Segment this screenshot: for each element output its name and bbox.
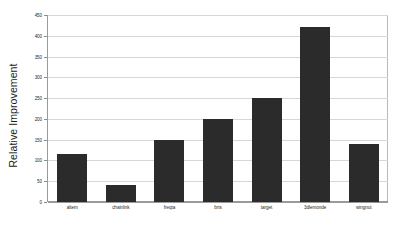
y-tick-label: 400 — [35, 33, 42, 38]
x-tick-label: brts — [214, 205, 221, 210]
y-tick-label: 350 — [35, 54, 42, 59]
bar[interactable] — [349, 144, 379, 202]
y-tick-label: 100 — [35, 158, 42, 163]
bar[interactable] — [57, 154, 87, 202]
bar[interactable] — [300, 27, 330, 202]
y-tick-mark — [44, 98, 47, 99]
bar[interactable] — [203, 119, 233, 202]
bar[interactable] — [106, 185, 136, 202]
bar[interactable] — [154, 140, 184, 202]
y-tick-mark — [44, 140, 47, 141]
bars-group — [48, 15, 388, 202]
y-tick-mark — [44, 77, 47, 78]
x-tick-label: freqta — [164, 205, 175, 210]
x-tick-label: altem — [67, 205, 78, 210]
y-tick-label: 450 — [35, 13, 42, 18]
y-tick-mark — [44, 15, 47, 16]
y-tick-label: 0 — [40, 200, 42, 205]
y-tick-mark — [44, 36, 47, 37]
bar-chart: Relative Improvement 0501001502002503003… — [0, 0, 396, 231]
y-tick-label: 300 — [35, 75, 42, 80]
x-tick-label: target — [261, 205, 272, 210]
bar[interactable] — [252, 98, 282, 202]
y-tick-label: 50 — [37, 179, 42, 184]
plot-area: 050100150200250300350400450 — [47, 15, 388, 202]
x-axis-tick-labels: altemchainlinkfreqtabrtstarget3dlemondew… — [48, 205, 388, 215]
y-tick-label: 150 — [35, 137, 42, 142]
y-tick-mark — [44, 160, 47, 161]
y-tick-mark — [44, 119, 47, 120]
x-tick-label: chainlink — [112, 205, 129, 210]
gridline — [48, 202, 388, 203]
y-tick-mark — [44, 57, 47, 58]
x-tick-label: 3dlemonde — [304, 205, 326, 210]
y-tick-mark — [44, 202, 47, 203]
y-tick-mark — [44, 181, 47, 182]
y-axis-title: Relative Improvement — [0, 0, 26, 231]
y-tick-label: 250 — [35, 96, 42, 101]
x-tick-label: wingnut — [356, 205, 371, 210]
y-tick-label: 200 — [35, 116, 42, 121]
